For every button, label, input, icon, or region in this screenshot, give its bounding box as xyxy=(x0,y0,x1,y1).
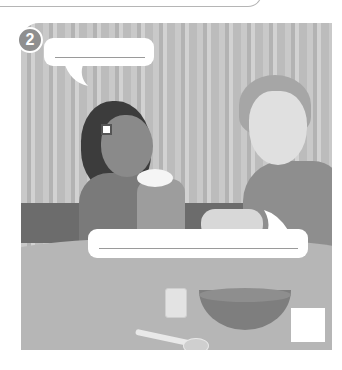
cream-illustration xyxy=(137,169,173,187)
glass-illustration xyxy=(165,288,187,318)
bowl-rim xyxy=(199,288,291,302)
boy-speech-bubble[interactable] xyxy=(88,229,308,258)
panel-number-badge: 2 xyxy=(17,27,43,53)
answer-line xyxy=(99,248,298,249)
boy-face xyxy=(249,91,307,165)
answer-box[interactable] xyxy=(291,308,325,342)
girl-speech-bubble[interactable] xyxy=(44,38,154,66)
answer-line xyxy=(55,57,145,58)
girl-bubble-tail xyxy=(62,62,92,88)
boy-bubble-tail xyxy=(262,210,292,232)
hairclip-icon xyxy=(101,124,112,135)
spoon-illustration xyxy=(183,338,209,350)
previous-panel-frame xyxy=(0,0,262,7)
